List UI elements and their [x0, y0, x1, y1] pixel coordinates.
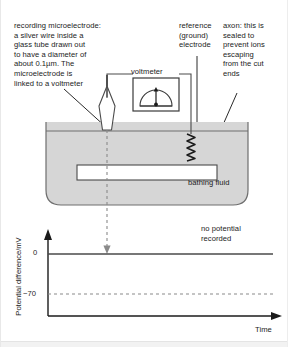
chart-y-axis-label: Potential difference/mV: [14, 222, 23, 332]
chart-annotation-no-potential: no potential recorded: [201, 224, 281, 243]
bottom-edge-band: [1, 341, 288, 347]
label-voltmeter: voltmeter: [131, 67, 163, 77]
dashed-projection-arrowhead: [103, 246, 110, 255]
voltmeter-needle-pivot: [154, 103, 158, 107]
chart-y-axis-arrowhead: [44, 229, 52, 240]
chart-y-tick-minus70: −70: [23, 289, 36, 299]
label-recording-microelectrode: recording microelectrode: a silver wire …: [14, 21, 144, 88]
label-reference-electrode: reference (ground) electrode: [179, 21, 219, 50]
chart-x-axis-label: Time: [255, 325, 272, 335]
label-axon: axon: this is sealed to prevent ions esc…: [223, 21, 285, 79]
bathing-fluid-container: [46, 122, 248, 205]
wire-voltmeter-to-ground: [179, 74, 191, 106]
chart-x-axis-arrowhead: [271, 312, 282, 320]
chart-y-tick-0: 0: [33, 248, 37, 258]
label-bathing-fluid: bathing fluid: [188, 178, 230, 188]
figure-panel: recording microelectrode: a silver wire …: [0, 0, 288, 347]
